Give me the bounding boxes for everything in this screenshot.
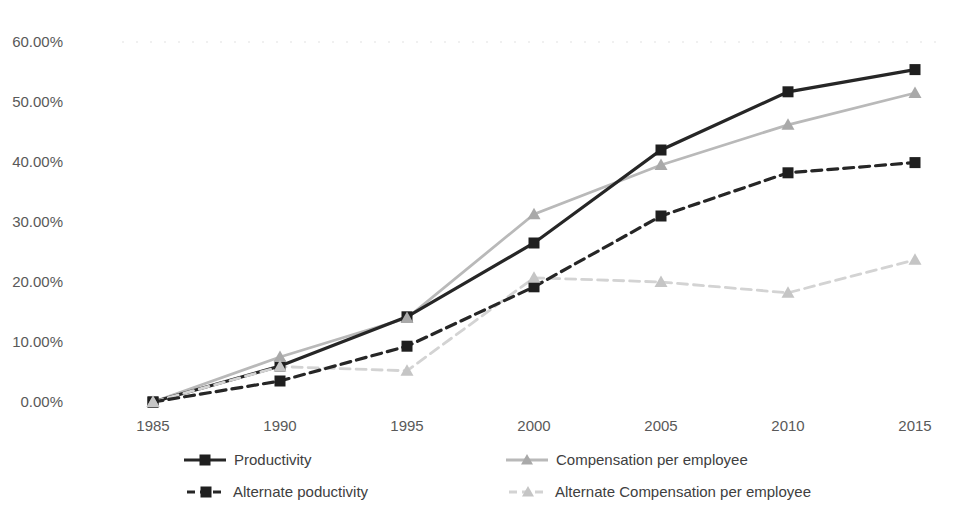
marker-square-2000 (529, 281, 540, 292)
legend-marker-productivity (183, 452, 227, 468)
legend-item-productivity: Productivity (183, 452, 312, 468)
x-axis-tick-1985: 1985 (136, 417, 169, 434)
legend-label-alternate-compensation: Alternate Compensation per employee (555, 484, 811, 500)
legend-marker-alternate-productivity (186, 484, 226, 500)
marker-square-2015 (910, 157, 921, 168)
y-axis-tick-30.00%: 30.00% (12, 213, 63, 230)
y-axis-tick-60.00%: 60.00% (12, 33, 63, 50)
legend-label-compensation: Compensation per employee (556, 452, 748, 468)
legend-marker-alternate-compensation (508, 484, 548, 500)
series-line-productivity (153, 70, 915, 402)
x-axis-tick-2000: 2000 (517, 417, 550, 434)
x-axis-tick-1995: 1995 (390, 417, 423, 434)
marker-square-2000 (529, 238, 540, 249)
y-axis-tick-10.00%: 10.00% (12, 333, 63, 350)
marker-square-2005 (656, 211, 667, 222)
legend-item-compensation: Compensation per employee (505, 452, 748, 468)
marker-square-2010 (783, 86, 794, 97)
marker-square-1995 (402, 341, 413, 352)
marker-square-2005 (656, 145, 667, 156)
x-axis-tick-2005: 2005 (644, 417, 677, 434)
marker-square-2015 (910, 64, 921, 75)
legend-marker-compensation (505, 452, 549, 468)
marker-triangle-2015 (909, 87, 922, 99)
legend-label-alternate-productivity: Alternate poductivity (233, 484, 368, 500)
line-chart-plot-area: 0.00%10.00%20.00%30.00%40.00%50.00%60.00… (0, 0, 960, 527)
marker-square-1990 (275, 376, 286, 387)
legend-label-productivity: Productivity (234, 452, 312, 468)
x-axis-tick-1990: 1990 (263, 417, 296, 434)
legend-square (201, 487, 212, 498)
legend-item-alternate-productivity: Alternate poductivity (186, 484, 368, 500)
chart: 0.00%10.00%20.00%30.00%40.00%50.00%60.00… (0, 0, 960, 527)
x-axis-tick-2010: 2010 (771, 417, 804, 434)
y-axis-tick-50.00%: 50.00% (12, 93, 63, 110)
y-axis-tick-20.00%: 20.00% (12, 273, 63, 290)
marker-square-2010 (783, 167, 794, 178)
x-axis-tick-2015: 2015 (898, 417, 931, 434)
y-axis-tick-40.00%: 40.00% (12, 153, 63, 170)
y-axis-tick-0.00%: 0.00% (20, 393, 63, 410)
marker-triangle-2015 (909, 253, 922, 264)
legend-item-alternate-compensation: Alternate Compensation per employee (508, 484, 811, 500)
legend-square (200, 455, 211, 466)
